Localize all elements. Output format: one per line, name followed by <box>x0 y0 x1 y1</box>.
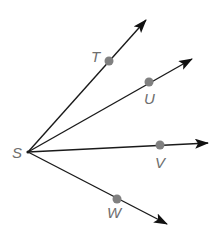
point-label-v: V <box>155 154 167 171</box>
ray-SW <box>28 152 167 224</box>
point-label-u: U <box>144 90 155 107</box>
diagram-svg: S TUVW <box>0 0 218 237</box>
ray-SV <box>28 143 208 152</box>
ray-SU <box>28 59 192 152</box>
ray-ST <box>28 20 146 152</box>
point-u <box>145 78 154 87</box>
labels-layer: S TUVW <box>12 48 167 221</box>
vertex-label-s: S <box>12 144 22 161</box>
point-t <box>105 57 114 66</box>
point-label-w: W <box>107 204 123 221</box>
vertex-point-s <box>26 150 29 153</box>
point-w <box>113 195 122 204</box>
rays-diagram: S TUVW <box>0 0 218 237</box>
point-label-t: T <box>91 48 102 65</box>
rays-layer <box>28 20 208 224</box>
point-v <box>156 141 165 150</box>
